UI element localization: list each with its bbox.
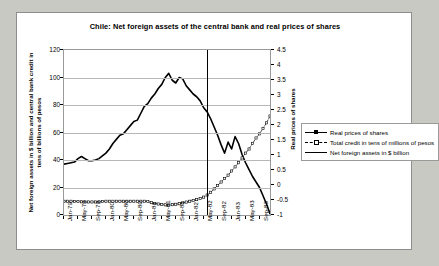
x-tick-label: May-81 xyxy=(164,200,171,221)
y-tick-label-left: 20 xyxy=(53,183,60,190)
y-tick-mark-right xyxy=(271,184,274,185)
series-marker xyxy=(269,115,270,117)
series-marker xyxy=(175,203,177,205)
gridline xyxy=(64,133,270,134)
x-tick-mark xyxy=(175,216,176,219)
series-marker xyxy=(203,196,205,198)
y-tick-mark-right xyxy=(271,79,274,80)
y-tick-mark-right xyxy=(271,154,274,155)
series-marker xyxy=(101,200,103,202)
legend-item: Real prices of shares xyxy=(305,127,434,137)
x-tick-label: Sep-83 xyxy=(262,201,269,221)
chart-legend: Real prices of sharesTotal credit in ten… xyxy=(301,123,439,161)
chart-figure: Chile: Net foreign assets of the central… xyxy=(16,12,412,250)
series-marker xyxy=(119,200,121,202)
series-line xyxy=(64,73,270,213)
series-marker xyxy=(265,122,267,124)
y-tick-label-right: -0.5 xyxy=(277,196,288,203)
x-tick-label: Jan-83 xyxy=(234,202,241,221)
series-marker xyxy=(210,191,212,193)
series-marker xyxy=(133,200,135,202)
series-marker xyxy=(217,184,219,186)
legend-item: Net foreign assets in $ billion xyxy=(305,147,434,157)
x-tick-mark xyxy=(245,216,246,219)
series-marker xyxy=(189,200,191,202)
legend-item: Total credit in tens of millions of peso… xyxy=(305,137,434,147)
y-tick-label-left: 80 xyxy=(53,101,60,108)
x-tick-label: Sep-82 xyxy=(220,201,227,221)
series-marker xyxy=(251,142,253,144)
y-tick-label-right: 4 xyxy=(277,61,281,68)
y-tick-label-left: 60 xyxy=(53,128,60,135)
x-tick-label: Sep-81 xyxy=(178,201,185,221)
x-tick-label: May-83 xyxy=(248,200,255,221)
y-tick-label-right: 4.5 xyxy=(277,46,286,53)
y-tick-label-left: 40 xyxy=(53,156,60,163)
x-axis: Jan-79May-79Sep-79Jan-80May-80Sep-80Jan-… xyxy=(63,216,271,256)
y-tick-label-right: 0 xyxy=(277,181,281,188)
series-marker xyxy=(262,127,264,129)
x-tick-mark xyxy=(77,216,78,219)
y-tick-label-right: 3 xyxy=(277,91,281,98)
y-axis-left-label: Net foreign assets in $ billion and cent… xyxy=(27,49,49,216)
x-tick-label: Jan-82 xyxy=(192,202,199,221)
series-marker xyxy=(196,199,198,201)
y-tick-mark-right xyxy=(271,124,274,125)
x-tick-label: May-80 xyxy=(122,200,129,221)
series-marker xyxy=(77,200,79,202)
legend-key-icon xyxy=(305,148,327,157)
series-marker xyxy=(230,170,232,172)
y-tick-label-right: 0.5 xyxy=(277,166,286,173)
y-tick-mark-right xyxy=(271,64,274,65)
x-tick-mark xyxy=(217,216,218,219)
y-tick-label-right: 2.5 xyxy=(277,106,286,113)
series-marker xyxy=(220,181,222,183)
gridline xyxy=(64,160,270,161)
y-tick-mark-right xyxy=(271,199,274,200)
series-marker xyxy=(199,197,201,199)
y-tick-mark-right xyxy=(271,109,274,110)
series-marker xyxy=(171,204,173,206)
x-tick-mark xyxy=(189,216,190,219)
y-tick-label-left: 100 xyxy=(49,73,60,80)
series-marker xyxy=(105,200,107,202)
y-tick-label-right: 2 xyxy=(277,121,281,128)
x-tick-label: Sep-80 xyxy=(136,201,143,221)
x-tick-label: May-82 xyxy=(206,200,213,221)
y-tick-label-left: 120 xyxy=(49,46,60,53)
x-tick-mark xyxy=(91,216,92,219)
series-marker xyxy=(87,201,89,203)
chart-title: Chile: Net foreign assets of the central… xyxy=(17,22,413,31)
series-marker xyxy=(143,200,145,202)
x-tick-label: Jan-79 xyxy=(66,202,73,221)
plot-area xyxy=(63,49,271,216)
x-tick-mark xyxy=(63,216,64,219)
series-marker xyxy=(241,157,243,159)
x-tick-mark xyxy=(203,216,204,219)
series-marker xyxy=(147,200,149,202)
y-tick-label-right: 1 xyxy=(277,151,281,158)
x-tick-label: Jan-80 xyxy=(108,202,115,221)
series-marker xyxy=(157,203,159,205)
legend-label: Total credit in tens of millions of peso… xyxy=(330,139,434,146)
gridline xyxy=(64,105,270,106)
x-tick-mark xyxy=(161,216,162,219)
series-marker xyxy=(185,201,187,203)
y-tick-mark-right xyxy=(271,94,274,95)
y-tick-label-right: -1 xyxy=(277,211,283,218)
x-tick-mark xyxy=(147,216,148,219)
series-marker xyxy=(73,200,75,202)
y-tick-mark-right xyxy=(271,49,274,50)
y-tick-label-right: 3.5 xyxy=(277,76,286,83)
x-tick-mark xyxy=(259,216,260,219)
series-marker xyxy=(129,200,131,202)
series-marker xyxy=(234,166,236,168)
x-tick-label: Jan-81 xyxy=(150,202,157,221)
series-marker xyxy=(115,200,117,202)
legend-key-icon xyxy=(305,138,327,147)
y-tick-label-right: 1.5 xyxy=(277,136,286,143)
series-marker xyxy=(244,152,246,154)
x-tick-mark xyxy=(231,216,232,219)
series-marker xyxy=(224,177,226,179)
y-tick-mark-right xyxy=(271,214,274,215)
